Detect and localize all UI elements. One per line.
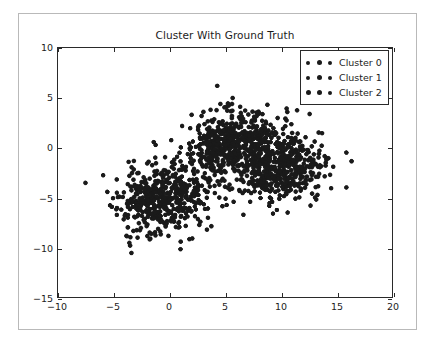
y-tick-mark (58, 299, 62, 300)
x-tick-label: 15 (317, 301, 357, 312)
y-tick-mark-right (388, 299, 392, 300)
legend-item-cluster-2[interactable]: Cluster 2 (306, 85, 382, 100)
legend-marker-cluster-1 (306, 75, 332, 80)
y-tick-label: −10 (21, 242, 53, 253)
x-tick-label: −10 (37, 301, 77, 312)
y-tick-mark-right (388, 148, 392, 149)
legend-item-cluster-0[interactable]: Cluster 0 (306, 55, 382, 70)
y-tick-mark-right (388, 199, 392, 200)
legend-label-cluster-2: Cluster 2 (339, 87, 382, 98)
x-tick-mark-top (282, 48, 283, 52)
y-axis-tick-labels: 1050−5−10−15 (18, 47, 53, 298)
x-tick-label: −5 (93, 301, 133, 312)
x-tick-mark-top (58, 48, 59, 52)
legend-item-cluster-1[interactable]: Cluster 1 (306, 70, 382, 85)
x-tick-mark (58, 293, 59, 297)
x-tick-mark-top (394, 48, 395, 52)
y-tick-mark (58, 249, 62, 250)
legend-marker-cluster-0 (306, 60, 332, 65)
legend-box: Cluster 0 Cluster 1 Cluster 2 (300, 50, 389, 105)
x-tick-mark (338, 293, 339, 297)
x-tick-label: 10 (261, 301, 301, 312)
y-tick-label: 5 (21, 92, 53, 103)
x-tick-mark (170, 293, 171, 297)
y-tick-label: 10 (21, 42, 53, 53)
legend-marker-cluster-2 (306, 90, 332, 95)
y-tick-label: −5 (21, 192, 53, 203)
figure: Cluster With Ground Truth 1050−5−10−15 −… (0, 0, 435, 345)
x-tick-mark-top (226, 48, 227, 52)
chart-title: Cluster With Ground Truth (57, 29, 393, 41)
x-tick-mark (282, 293, 283, 297)
x-tick-label: 20 (373, 301, 413, 312)
x-tick-label: 5 (205, 301, 245, 312)
x-tick-mark-top (114, 48, 115, 52)
x-tick-mark (226, 293, 227, 297)
y-tick-mark-right (388, 249, 392, 250)
x-tick-label: 0 (149, 301, 189, 312)
x-tick-mark (394, 293, 395, 297)
legend-label-cluster-0: Cluster 0 (339, 57, 382, 68)
x-tick-mark (114, 293, 115, 297)
y-tick-label: 0 (21, 142, 53, 153)
y-tick-mark-right (388, 48, 392, 49)
legend-label-cluster-1: Cluster 1 (339, 72, 382, 83)
y-tick-mark (58, 199, 62, 200)
x-tick-mark-top (170, 48, 171, 52)
y-tick-mark (58, 148, 62, 149)
x-axis-tick-labels: −10−505101520 (57, 301, 393, 317)
y-tick-mark (58, 98, 62, 99)
